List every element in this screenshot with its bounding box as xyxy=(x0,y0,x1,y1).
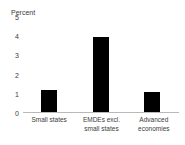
bar xyxy=(93,37,109,113)
x-axis-tick-label-line: Small states xyxy=(23,116,75,125)
x-axis-tick-label: EMDEs excl.small states xyxy=(75,116,127,133)
x-axis-tick-label-line: economies xyxy=(128,125,180,134)
x-axis: Small statesEMDEs excl.small statesAdvan… xyxy=(23,116,180,142)
x-axis-tick-label: Advancedeconomies xyxy=(128,116,180,133)
bar-chart: Percent 543210 Small statesEMDEs excl.sm… xyxy=(0,0,185,145)
bar xyxy=(144,92,160,113)
x-axis-tick-label: Small states xyxy=(23,116,75,125)
y-axis-tick-label: 4 xyxy=(15,33,19,40)
y-axis: 543210 xyxy=(0,17,22,115)
y-axis-tick-label: 0 xyxy=(15,110,19,117)
x-axis-tick-label-line: EMDEs excl. xyxy=(75,116,127,125)
x-axis-tick-label-line: small states xyxy=(75,125,127,134)
y-axis-tick-label: 5 xyxy=(15,14,19,21)
y-axis-tick-label: 2 xyxy=(15,71,19,78)
x-axis-tick-label-line: Advanced xyxy=(128,116,180,125)
y-axis-tick-label: 1 xyxy=(15,90,19,97)
y-axis-tick-label: 3 xyxy=(15,52,19,59)
bar xyxy=(41,90,57,113)
plot-area xyxy=(23,17,178,113)
x-axis-line xyxy=(23,112,179,113)
